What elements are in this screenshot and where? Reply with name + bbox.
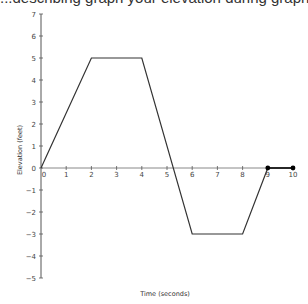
y-tick-label: −3	[26, 231, 36, 239]
y-axis-title: Elevation (feet)	[16, 125, 24, 175]
y-tick-label: 5	[32, 55, 36, 63]
x-tick-label: 0	[42, 171, 46, 179]
y-tick-label: −5	[26, 275, 36, 283]
x-tick-label: 6	[190, 171, 195, 179]
x-tick-label: 7	[215, 171, 219, 179]
x-tick-label: 10	[289, 171, 298, 179]
data-point	[291, 166, 296, 171]
y-tick-label: 6	[32, 33, 37, 41]
x-tick-label: 4	[140, 171, 145, 179]
y-tick-label: 2	[32, 121, 36, 129]
x-tick-label: 3	[114, 171, 118, 179]
x-axis-title: Time (seconds)	[139, 290, 190, 298]
y-tick-label: −1	[26, 187, 36, 195]
y-tick-label: 1	[32, 143, 36, 151]
y-tick-label: 3	[32, 99, 36, 107]
x-tick-label: 2	[89, 171, 93, 179]
x-tick-label: 1	[64, 171, 68, 179]
x-tick-label: 5	[165, 171, 169, 179]
y-tick-label: −4	[26, 253, 37, 261]
y-tick-label: 7	[32, 11, 36, 19]
elevation-chart: 76543210−1−2−3−4−5012345678910Time (seco…	[0, 0, 308, 304]
data-point	[265, 166, 270, 171]
y-tick-label: 4	[32, 77, 37, 85]
y-tick-label: 0	[32, 165, 36, 173]
x-tick-label: 8	[240, 171, 244, 179]
y-tick-label: −2	[26, 209, 36, 217]
series-line-elevation	[41, 58, 268, 234]
